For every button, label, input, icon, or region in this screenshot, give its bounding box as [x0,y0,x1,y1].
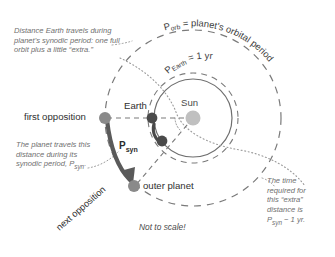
right-caption-line-1: The time [267,176,297,185]
label-outer-planet: outer planet [143,180,194,192]
caption-line-3-subscript: syn [74,163,84,170]
right-caption-rest: − 1 yr. [282,215,305,224]
caption-planet-distance: The planet travels this distance during … [16,140,112,171]
label-p-syn: Psyn [119,140,138,155]
p-syn-subscript: syn [126,146,138,153]
astronomy-diagram: Porb = planet's orbital period PEarth = … [0,0,335,257]
planet-dot-next-opposition [128,180,140,192]
caption-line-3: synodic period, P [16,159,74,168]
p-syn-symbol: P [119,140,126,151]
label-first-opposition: first opposition [24,111,86,123]
earth-dot-next [157,136,168,147]
caption-extra-time: The time required for this “extra” dista… [267,176,329,226]
orbital-period-arc-label: Porb = planet's orbital period [162,17,276,63]
caption-line-1: The planet travels this [16,140,90,149]
label-not-to-scale: Not to scale! [139,222,186,233]
right-caption-line-4: distance is [267,205,303,214]
right-caption-subscript: syn [272,218,282,225]
label-earth: Earth [124,100,147,112]
earth-period-arc-label: PEarth = 1 yr [162,50,213,76]
earth-subscript: Earth [170,58,188,72]
label-sun: Sun [181,97,198,109]
right-caption-line-3: this “extra” [267,195,303,204]
right-caption-line-2: required for [267,186,306,195]
earth-dot-first [147,113,158,124]
sun-disc [186,111,201,126]
angle-arc-at-sun [175,118,181,131]
caption-earth-distance: Distance Earth travels during planet's s… [14,26,134,55]
caption-line-3-end: . [84,159,86,168]
orb-subscript: orb [170,23,181,32]
planet-dot-first-opposition [99,112,111,124]
caption-line-2: distance during its [16,150,77,159]
